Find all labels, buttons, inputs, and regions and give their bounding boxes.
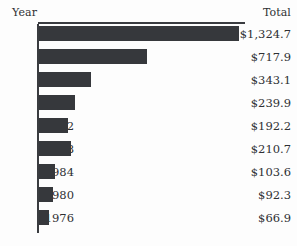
bar-track bbox=[39, 72, 91, 87]
bar-chart: Year Total 2008$1,324.72004$717.92000$34… bbox=[0, 0, 297, 246]
bar-track bbox=[39, 49, 147, 64]
chart-row: 2008$1,324.7 bbox=[0, 24, 297, 47]
chart-row: 1992$192.2 bbox=[0, 116, 297, 139]
bar bbox=[39, 210, 49, 225]
bar-track bbox=[39, 164, 55, 179]
column-header-row: Year Total bbox=[0, 6, 297, 22]
chart-row: 1980$92.3 bbox=[0, 185, 297, 208]
bar bbox=[39, 118, 68, 133]
bar bbox=[39, 95, 75, 110]
bar bbox=[39, 164, 55, 179]
bar-track bbox=[39, 118, 68, 133]
total-value-label: $103.6 bbox=[251, 165, 291, 179]
bar bbox=[39, 49, 147, 64]
total-value-label: $717.9 bbox=[251, 50, 291, 64]
bar bbox=[39, 26, 239, 41]
total-value-label: $210.7 bbox=[251, 142, 291, 156]
total-value-label: $66.9 bbox=[258, 211, 291, 225]
bar bbox=[39, 187, 53, 202]
bar bbox=[39, 72, 91, 87]
total-value-label: $192.2 bbox=[251, 119, 291, 133]
chart-rows: 2008$1,324.72004$717.92000$343.11996$239… bbox=[0, 24, 297, 231]
total-value-label: $1,324.7 bbox=[240, 27, 291, 41]
chart-row: 1976$66.9 bbox=[0, 208, 297, 231]
year-column-header: Year bbox=[12, 6, 37, 19]
chart-row: 2004$717.9 bbox=[0, 47, 297, 70]
bar-track bbox=[39, 141, 71, 156]
chart-row: 1996$239.9 bbox=[0, 93, 297, 116]
total-column-header: Total bbox=[263, 6, 291, 19]
total-value-label: $239.9 bbox=[251, 96, 291, 110]
bar-track bbox=[39, 210, 49, 225]
bar-track bbox=[39, 26, 239, 41]
bar-track bbox=[39, 187, 53, 202]
bar bbox=[39, 141, 71, 156]
total-value-label: $343.1 bbox=[251, 73, 291, 87]
bar-track bbox=[39, 95, 75, 110]
chart-row: 1988$210.7 bbox=[0, 139, 297, 162]
chart-row: 2000$343.1 bbox=[0, 70, 297, 93]
total-value-label: $92.3 bbox=[258, 188, 291, 202]
chart-row: 1984$103.6 bbox=[0, 162, 297, 185]
